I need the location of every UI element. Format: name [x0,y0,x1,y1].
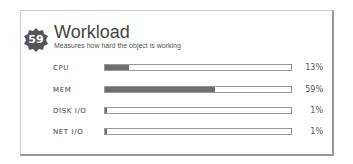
metric-label: CPU [53,63,69,73]
metric-bar [104,64,292,71]
metric-bar-fill [105,65,129,70]
metric-row-cpu: CPU 13% [0,63,353,75]
metric-bar-fill [105,87,215,92]
metric-label: MEM [53,85,71,95]
metric-bar [104,128,292,135]
widget-subtitle: Measures how hard the object is working [54,42,181,49]
metric-bar-fill [105,129,107,134]
workload-badge: 59 [24,28,48,52]
metric-label: NET I/O [53,127,83,137]
metric-bar [104,86,292,93]
metric-bar-fill [105,108,107,113]
metric-row-net-io: NET I/O 1% [0,127,353,139]
metric-label: DISK I/O [53,106,86,116]
metric-percent: 1% [310,127,323,137]
metric-bar [104,107,292,114]
metric-percent: 1% [310,106,323,116]
badge-value: 59 [24,33,48,46]
widget-title: Workload [54,22,130,43]
metric-row-mem: MEM 59% [0,85,353,97]
metric-percent: 59% [305,85,323,95]
metric-row-disk-io: DISK I/O 1% [0,106,353,118]
metric-percent: 13% [305,63,323,73]
